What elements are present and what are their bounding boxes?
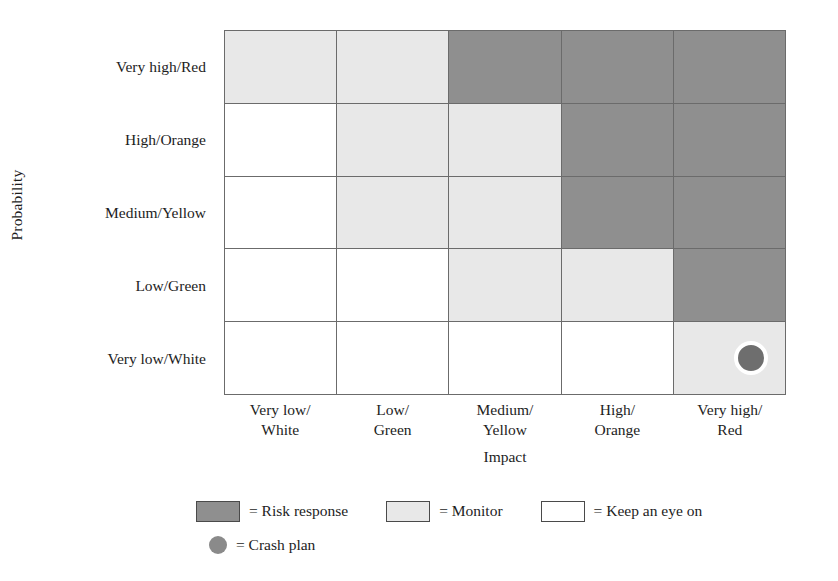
matrix-cell (337, 249, 449, 322)
x-tick-line2: Red (674, 420, 786, 440)
matrix-cell (562, 177, 674, 250)
x-tick-line1: Very low/ (250, 401, 311, 418)
x-tick-very-low-white: Very low/ White (224, 400, 336, 446)
matrix-cell (674, 249, 786, 322)
y-axis-title: Probability (0, 0, 34, 410)
x-tick-line2: Yellow (449, 420, 561, 440)
x-tick-line2: White (224, 420, 336, 440)
legend-item-crash-plan: = Crash plan (196, 536, 315, 554)
matrix-cell (337, 104, 449, 177)
crash-plan-circle-icon (209, 536, 227, 554)
matrix-cell (225, 249, 337, 322)
y-tick-very-high-red: Very high/Red (34, 30, 216, 103)
y-tick-very-low-white: Very low/White (34, 322, 216, 395)
x-tick-line2: Orange (561, 420, 673, 440)
matrix-cell (449, 322, 561, 395)
matrix-cell (449, 249, 561, 322)
x-tick-line2: Green (336, 420, 448, 440)
x-axis-title: Impact (224, 448, 786, 466)
matrix-cell (562, 31, 674, 104)
legend-label-monitor: = Monitor (439, 502, 502, 520)
x-tick-low-green: Low/ Green (336, 400, 448, 446)
matrix-cell (225, 177, 337, 250)
matrix-cell (449, 104, 561, 177)
x-tick-line1: High/ (600, 401, 635, 418)
matrix-cell (562, 104, 674, 177)
matrix-cell (337, 31, 449, 104)
y-axis-title-label: Probability (8, 169, 26, 240)
matrix-cell (337, 177, 449, 250)
x-axis-tick-labels: Very low/ White Low/ Green Medium/ Yello… (224, 400, 786, 446)
x-tick-line1: Very high/ (697, 401, 762, 418)
y-axis-tick-labels: Very high/Red High/Orange Medium/Yellow … (34, 30, 216, 395)
y-tick-medium-yellow: Medium/Yellow (34, 176, 216, 249)
legend-row-primary: = Risk response = Monitor = Keep an eye … (196, 496, 836, 526)
matrix-cell (562, 249, 674, 322)
matrix-cell (674, 104, 786, 177)
risk-matrix-grid (224, 30, 786, 395)
x-tick-medium-yellow: Medium/ Yellow (449, 400, 561, 446)
matrix-cell (449, 31, 561, 104)
matrix-cell (225, 322, 337, 395)
matrix-cell (674, 177, 786, 250)
matrix-cell (562, 322, 674, 395)
matrix-cell (674, 31, 786, 104)
legend-label-keep-an-eye-on: = Keep an eye on (594, 502, 703, 520)
legend: = Risk response = Monitor = Keep an eye … (196, 496, 836, 560)
y-tick-high-orange: High/Orange (34, 103, 216, 176)
legend-item-monitor: = Monitor (386, 501, 502, 522)
legend-item-keep-an-eye-on: = Keep an eye on (541, 501, 703, 522)
matrix-cell (225, 104, 337, 177)
legend-row-secondary: = Crash plan (196, 530, 836, 560)
legend-label-risk-response: = Risk response (249, 502, 348, 520)
white-swatch-icon (541, 501, 585, 522)
dark-swatch-icon (196, 501, 240, 522)
x-tick-high-orange: High/ Orange (561, 400, 673, 446)
crash-plan-marker (734, 341, 768, 375)
x-tick-very-high-red: Very high/ Red (674, 400, 786, 446)
x-tick-line1: Low/ (376, 401, 409, 418)
y-tick-low-green: Low/Green (34, 249, 216, 322)
light-swatch-icon (386, 501, 430, 522)
matrix-cell (225, 31, 337, 104)
matrix-cell (337, 322, 449, 395)
matrix-cell (674, 322, 786, 395)
matrix-cell (449, 177, 561, 250)
legend-item-risk-response: = Risk response (196, 501, 348, 522)
x-tick-line1: Medium/ (477, 401, 534, 418)
legend-label-crash-plan: = Crash plan (236, 536, 315, 554)
